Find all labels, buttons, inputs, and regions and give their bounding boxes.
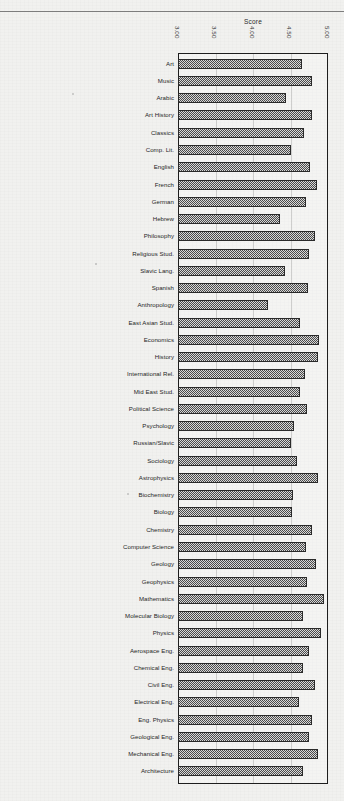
category-label-music: Music	[0, 77, 174, 84]
bar-international-rel	[178, 369, 305, 379]
category-label-biochemistry: Biochemistry	[0, 491, 174, 498]
scan-speck	[127, 493, 129, 495]
scan-speck	[95, 263, 97, 265]
bar-sociology	[178, 456, 297, 466]
category-label-art: Art	[0, 60, 174, 67]
bar-mathematics	[178, 594, 324, 604]
bar-east-asian-stud	[178, 318, 300, 328]
bar-electrical-eng	[178, 697, 299, 707]
category-label-architecture: Architecture	[0, 767, 174, 774]
category-label-spanish: Spanish	[0, 284, 174, 291]
bar-anthropology	[178, 300, 268, 310]
category-label-geological-eng: Geological Eng.	[0, 733, 174, 740]
bar-religious-stud	[178, 249, 309, 259]
bar-german	[178, 197, 306, 207]
category-label-molecular-biology: Molecular Biology	[0, 612, 174, 619]
bar-biochemistry	[178, 490, 293, 500]
category-label-chemistry: Chemistry	[0, 526, 174, 533]
category-label-geophysics: Geophysics	[0, 578, 174, 585]
category-label-russian-slavic: Russian/Slavic	[0, 439, 174, 446]
bar-architecture	[178, 766, 303, 776]
bar-physics	[178, 628, 321, 638]
category-label-comp-lit: Comp. Lit.	[0, 146, 174, 153]
category-label-arabic: Arabic	[0, 94, 174, 101]
category-label-psychology: Psychology	[0, 422, 174, 429]
category-label-civil-eng: Civil Eng.	[0, 681, 174, 688]
bar-art-history	[178, 110, 312, 120]
x-tick-label-4-50: 4.50	[286, 26, 293, 38]
bar-psychology	[178, 421, 294, 431]
category-label-east-asian-stud: East Asian Stud.	[0, 319, 174, 326]
category-label-eng-physics: Eng. Physics	[0, 716, 174, 723]
bar-economics	[178, 335, 319, 345]
category-label-art-history: Art History	[0, 111, 174, 118]
bar-philosophy	[178, 231, 315, 241]
category-label-sociology: Sociology	[0, 457, 174, 464]
category-label-computer-science: Computer Science	[0, 543, 174, 550]
category-label-mathematics: Mathematics	[0, 595, 174, 602]
bar-biology	[178, 507, 292, 517]
bar-classics	[178, 128, 304, 138]
bar-computer-science	[178, 542, 306, 552]
bar-political-science	[178, 404, 307, 414]
bar-eng-physics	[178, 715, 312, 725]
bar-french	[178, 180, 317, 190]
x-tick-label-4-00: 4.00	[249, 26, 256, 38]
category-label-classics: Classics	[0, 129, 174, 136]
x-tick-label-3-00: 3.00	[174, 26, 181, 38]
category-label-international-rel: International Rel.	[0, 370, 174, 377]
bar-slavic-lang	[178, 266, 285, 276]
bar-geology	[178, 559, 316, 569]
bar-music	[178, 76, 312, 86]
bar-history	[178, 352, 318, 362]
bar-astrophysics	[178, 473, 318, 483]
bar-chemistry	[178, 525, 312, 535]
category-label-philosophy: Philosophy	[0, 232, 174, 239]
bar-chemical-eng	[178, 663, 303, 673]
category-label-religious-stud: Religious Stud.	[0, 250, 174, 257]
category-label-french: French	[0, 181, 174, 188]
category-label-physics: Physics	[0, 629, 174, 636]
category-label-economics: Economics	[0, 336, 174, 343]
category-label-aerospace-eng: Aerospace Eng.	[0, 647, 174, 654]
bar-geophysics	[178, 577, 307, 587]
category-label-astrophysics: Astrophysics	[0, 474, 174, 481]
category-label-political-science: Political Science	[0, 405, 174, 412]
category-label-chemical-eng: Chemical Eng.	[0, 664, 174, 671]
x-axis-title: Score	[178, 18, 328, 25]
bar-english	[178, 162, 310, 172]
bar-arabic	[178, 93, 286, 103]
category-label-mechanical-eng: Mechanical Eng.	[0, 750, 174, 757]
category-label-anthropology: Anthropology	[0, 301, 174, 308]
category-label-history: History	[0, 353, 174, 360]
x-tick-label-3-50: 3.50	[211, 26, 218, 38]
bar-russian-slavic	[178, 438, 291, 448]
bar-aerospace-eng	[178, 646, 309, 656]
category-label-geology: Geology	[0, 560, 174, 567]
bar-geological-eng	[178, 732, 309, 742]
bar-art	[178, 59, 302, 69]
bar-spanish	[178, 283, 308, 293]
category-label-mid-east-stud: Mid East Stud.	[0, 388, 174, 395]
scan-speck	[72, 93, 74, 95]
category-label-biology: Biology	[0, 508, 174, 515]
bar-hebrew	[178, 214, 280, 224]
category-label-english: English	[0, 163, 174, 170]
bar-civil-eng	[178, 680, 315, 690]
bar-molecular-biology	[178, 611, 303, 621]
category-label-german: German	[0, 198, 174, 205]
category-label-hebrew: Hebrew	[0, 215, 174, 222]
category-label-slavic-lang: Slavic Lang.	[0, 267, 174, 274]
bar-mechanical-eng	[178, 749, 318, 759]
category-label-electrical-eng: Electrical Eng.	[0, 698, 174, 705]
bar-comp-lit	[178, 145, 291, 155]
x-tick-label-5-00: 5.00	[324, 26, 331, 38]
bar-mid-east-stud	[178, 387, 300, 397]
horizontal-bar-chart: Score 3.003.504.004.505.00 ArtMusicArabi…	[0, 0, 344, 801]
